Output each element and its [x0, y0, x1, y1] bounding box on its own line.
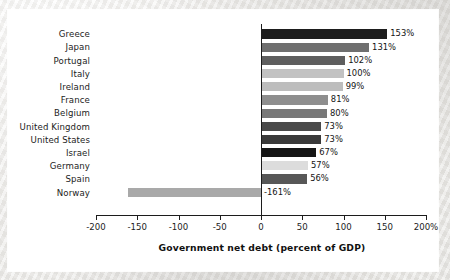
bar-row: France81% — [8, 94, 438, 107]
bar — [128, 188, 261, 197]
bar-value-label: 67% — [319, 147, 338, 158]
category-label: Germany — [8, 162, 90, 171]
bar — [261, 161, 308, 170]
bar-row: Portugal102% — [8, 54, 438, 67]
bar — [261, 56, 345, 65]
bar-row: United Kingdom73% — [8, 120, 438, 133]
bar-row: Italy100% — [8, 68, 438, 81]
bar-value-label: 102% — [348, 55, 372, 66]
zero-axis-line — [261, 24, 262, 215]
bar — [261, 109, 327, 118]
bar-row: Spain56% — [8, 173, 438, 186]
x-tick-label: 150 — [377, 222, 393, 232]
category-label: Portugal — [8, 57, 90, 66]
bar-row: Norway-161% — [8, 186, 438, 199]
bar — [261, 95, 328, 104]
x-tick — [344, 215, 345, 220]
x-axis-title: Government net debt (percent of GDP) — [8, 242, 438, 253]
bar — [261, 69, 344, 78]
bar-row: Ireland99% — [8, 81, 438, 94]
bar-row: Greece153% — [8, 28, 438, 41]
x-tick-label: -200 — [86, 222, 106, 232]
category-label: France — [8, 96, 90, 105]
bar — [261, 82, 343, 91]
bar — [261, 174, 307, 183]
bar — [261, 122, 321, 131]
x-tick — [302, 215, 303, 220]
scanned-page-background: Greece153%Japan131%Portugal102%Italy100%… — [0, 0, 450, 280]
bar-value-label: 99% — [346, 81, 365, 92]
x-tick-label: -150 — [127, 222, 147, 232]
bar — [261, 135, 321, 144]
x-tick — [220, 215, 221, 220]
bar-row: Japan131% — [8, 41, 438, 54]
bar-value-label: 56% — [310, 173, 329, 184]
x-tick-label: -100 — [169, 222, 189, 232]
bar-value-label: 100% — [347, 68, 371, 79]
category-label: Belgium — [8, 109, 90, 118]
x-tick-label: -50 — [213, 222, 227, 232]
category-label: Japan — [8, 43, 90, 52]
category-label: Greece — [8, 30, 90, 39]
bar-value-label: 80% — [330, 108, 349, 119]
bar-value-label: 131% — [372, 42, 396, 53]
category-label: Israel — [8, 149, 90, 158]
bar-value-label: -161% — [264, 187, 291, 198]
bar-row: United States73% — [8, 134, 438, 147]
x-tick-label: 0 — [258, 222, 263, 232]
category-label: Norway — [8, 189, 90, 198]
category-label: Spain — [8, 175, 90, 184]
plot-area: Greece153%Japan131%Portugal102%Italy100%… — [8, 10, 438, 271]
x-tick — [96, 215, 97, 220]
bar-value-label: 153% — [390, 28, 414, 39]
chart-figure: Greece153%Japan131%Portugal102%Italy100%… — [8, 10, 438, 271]
bar-row: Belgium80% — [8, 107, 438, 120]
bar-row: Israel67% — [8, 147, 438, 160]
x-tick — [385, 215, 386, 220]
bar — [261, 43, 369, 52]
bar-value-label: 81% — [331, 94, 350, 105]
bar-rows: Greece153%Japan131%Portugal102%Italy100%… — [8, 28, 438, 213]
x-tick — [426, 215, 427, 220]
x-tick — [261, 215, 262, 220]
bar-row: Germany57% — [8, 160, 438, 173]
category-label: Ireland — [8, 83, 90, 92]
x-tick-label: 100 — [335, 222, 351, 232]
bar-value-label: 73% — [324, 134, 343, 145]
x-tick-label: 200% — [414, 222, 439, 232]
x-tick — [179, 215, 180, 220]
category-label: United States — [8, 136, 90, 145]
bar-value-label: 57% — [311, 160, 330, 171]
bar — [261, 29, 387, 38]
category-label: Italy — [8, 70, 90, 79]
x-tick-label: 50 — [297, 222, 308, 232]
category-label: United Kingdom — [8, 123, 90, 132]
bar-value-label: 73% — [324, 121, 343, 132]
x-tick — [137, 215, 138, 220]
bar — [261, 148, 316, 157]
